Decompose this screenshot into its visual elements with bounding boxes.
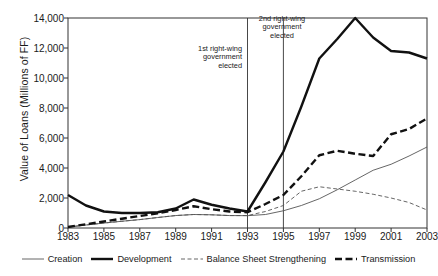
legend-swatch (181, 255, 203, 263)
annotation-first-right-wing: 1st right-wing government elected (170, 45, 242, 70)
legend-item[interactable]: Transmission (335, 254, 415, 264)
legend-item[interactable]: Balance Sheet Strengthening (181, 254, 327, 264)
legend-swatch (22, 255, 44, 263)
axis-tickmarks (64, 18, 427, 232)
legend-label: Development (117, 254, 171, 264)
legend-item[interactable]: Creation (22, 254, 83, 264)
legend-label: Creation (48, 254, 83, 264)
legend-swatch (335, 255, 357, 263)
legend-item[interactable]: Development (91, 254, 171, 264)
annotation-second-right-wing: 2nd right-wing government elected (246, 15, 318, 40)
legend-swatch (91, 255, 113, 263)
legend-label: Balance Sheet Strengthening (207, 254, 327, 264)
chart-legend: CreationDevelopmentBalance Sheet Strengt… (0, 250, 437, 268)
legend-label: Transmission (361, 254, 415, 264)
